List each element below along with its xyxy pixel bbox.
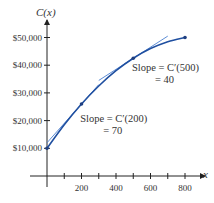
- y-tick-label: $30,000: [13, 88, 43, 98]
- data-point: [45, 147, 49, 151]
- x-axis-label: x: [202, 168, 208, 180]
- y-tick-label: $40,000: [13, 60, 43, 70]
- axes: [30, 20, 205, 187]
- data-point: [183, 36, 187, 40]
- y-tick-label: $20,000: [13, 116, 43, 126]
- slope-annotation-line2: = 40: [155, 74, 174, 85]
- x-tick-label: 600: [144, 183, 158, 193]
- y-axis-label: C(x): [36, 6, 56, 19]
- data-point: [80, 102, 84, 106]
- slope-annotation-line1: Slope = C′(200): [80, 113, 148, 125]
- x-tick-label: 200: [75, 183, 89, 193]
- slope-annotation-line1: Slope = C′(500): [132, 62, 200, 74]
- y-tick-label: $10,000: [13, 143, 43, 153]
- x-tick-label: 800: [178, 183, 192, 193]
- annotations: Slope = C′(200)= 70Slope = C′(500)= 40: [80, 62, 199, 136]
- data-point: [131, 56, 135, 60]
- y-tick-label: $50,000: [13, 33, 43, 43]
- slope-annotation-line2: = 70: [103, 125, 122, 136]
- labels: C(x) x: [36, 6, 208, 180]
- chart: 200400600800$10,000$20,000$30,000$40,000…: [0, 0, 214, 203]
- x-tick-label: 400: [109, 183, 123, 193]
